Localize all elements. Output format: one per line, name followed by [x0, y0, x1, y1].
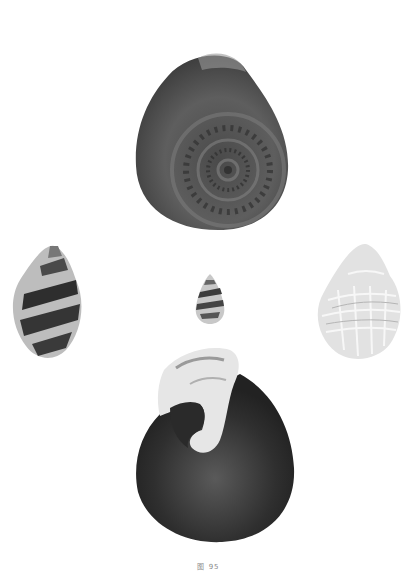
engraving-plate: 图 95 [0, 0, 417, 578]
bottom-shell-figure [130, 344, 302, 544]
top-shell-figure [128, 48, 296, 232]
right-shell-figure [308, 240, 408, 366]
left-shell-figure [6, 240, 90, 364]
figure-caption: 图 95 [0, 561, 417, 571]
center-shell-figure [192, 272, 228, 326]
